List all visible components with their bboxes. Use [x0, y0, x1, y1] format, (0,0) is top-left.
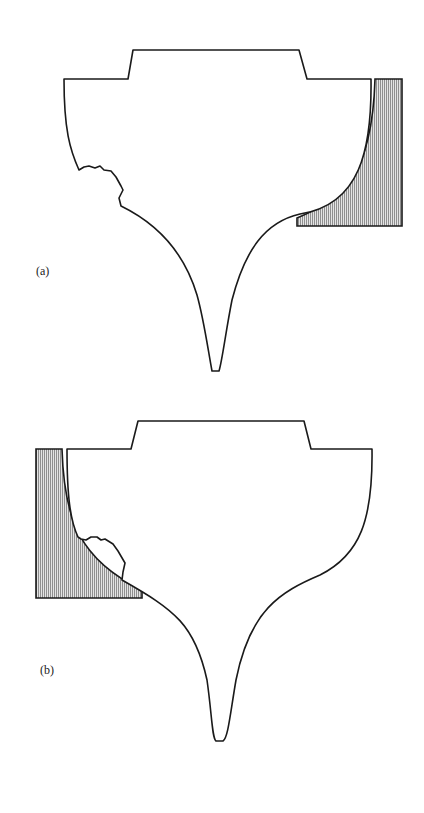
diagram-canvas — [0, 0, 424, 813]
figure-label-a: (a) — [36, 264, 49, 279]
figure-b — [36, 421, 372, 741]
figure-a — [64, 50, 402, 371]
figure-label-b: (b) — [40, 663, 54, 678]
